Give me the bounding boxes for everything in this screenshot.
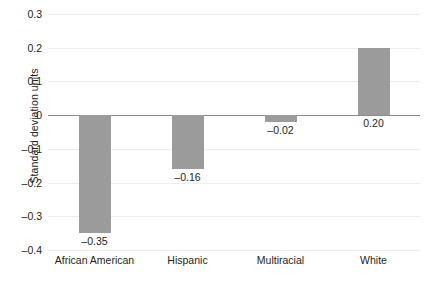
y-axis-tick-label: –0.1: [22, 143, 42, 155]
bar-value-label: –0.16: [174, 171, 200, 183]
bar-value-label: 0.20: [363, 117, 383, 129]
x-axis-category-label: Multiracial: [257, 254, 304, 266]
y-axis-tick-label: –0.3: [22, 210, 42, 222]
y-axis-tick-label: 0.3: [27, 8, 42, 20]
y-axis-tick-label: 0.2: [27, 42, 42, 54]
x-axis-category-label: Hispanic: [167, 254, 207, 266]
bar-chart: Standard deviation units 0.30.20.10–0.1–…: [0, 0, 426, 291]
bar: [358, 48, 390, 115]
y-axis-tick-label: 0: [36, 109, 42, 121]
gridline: [48, 250, 420, 251]
y-axis-tick-label: 0.1: [27, 75, 42, 87]
gridline: [48, 14, 420, 15]
bar: [79, 115, 111, 233]
bar: [172, 115, 204, 169]
x-axis-category-label: White: [360, 254, 387, 266]
plot-area: 0.30.20.10–0.1–0.2–0.3–0.4 –0.35–0.16–0.…: [48, 14, 420, 250]
bar-value-label: –0.35: [81, 235, 107, 247]
bar-value-label: –0.02: [267, 124, 293, 136]
y-axis-title: Standard deviation units: [28, 31, 40, 221]
bar: [265, 115, 297, 122]
y-axis-tick-label: –0.2: [22, 177, 42, 189]
y-axis-tick-label: –0.4: [22, 244, 42, 256]
x-axis-category-label: African American: [55, 254, 134, 266]
